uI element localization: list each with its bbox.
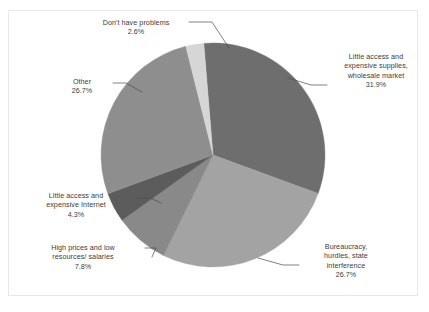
slice-label-text: Little access and (328, 52, 424, 61)
leader-line-bureaucracy (258, 258, 299, 265)
slice-label-text: Bureaucracy, (300, 242, 392, 251)
slice-label-internet: Little access and expensive Internet 4.3… (16, 191, 136, 219)
slice-label-text: Little access and (16, 191, 136, 200)
slice-label-percent: 4.3% (16, 210, 136, 219)
slice-label-percent: 31.9% (328, 80, 424, 89)
pie-chart-figure: Don't have problems 2.6% Little access a… (0, 0, 429, 312)
slice-label-percent: 2.6% (84, 27, 188, 36)
slice-label-text: expensive supplies, (328, 61, 424, 70)
slice-label-text: expensive Internet (16, 200, 136, 209)
slice-label-percent: 7.8% (22, 262, 144, 271)
slice-label-high-prices: High prices and low resources/ salaries … (22, 243, 144, 271)
slice-label-percent: 26.7% (300, 270, 392, 279)
slice-label-other: Other 26.7% (52, 77, 112, 96)
slice-label-supplies: Little access and expensive supplies, wh… (328, 52, 424, 90)
slice-label-text: resources/ salaries (22, 252, 144, 261)
slice-label-text: wholesale market (328, 71, 424, 80)
slice-label-text: Don't have problems (84, 18, 188, 27)
slice-label-text: hurdles, state (300, 251, 392, 260)
slice-label-dont-have-problems: Don't have problems 2.6% (84, 18, 188, 37)
pie-slices (101, 43, 325, 267)
slice-label-bureaucracy: Bureaucracy, hurdles, state interference… (300, 242, 392, 280)
slice-label-text: Other (52, 77, 112, 86)
slice-label-text: interference (300, 261, 392, 270)
slice-label-percent: 26.7% (52, 86, 112, 95)
slice-label-text: High prices and low (22, 243, 144, 252)
